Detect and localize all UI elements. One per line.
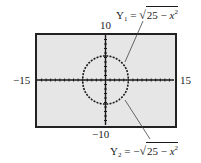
sqrt-icon: √ <box>139 144 146 158</box>
equation-y1: Y1 = √25 − x2 <box>116 6 178 25</box>
y1-exponent: 2 <box>174 8 178 16</box>
y2-leader-line <box>125 100 150 139</box>
ymin-label: −10 <box>92 129 109 140</box>
y2-subscript: 2 <box>118 151 122 159</box>
y2-radicand: 25 − x2 <box>146 142 178 157</box>
y2-name: Y <box>110 145 118 157</box>
y1-equals: = <box>130 9 136 21</box>
sqrt-icon: √ <box>139 8 146 22</box>
y1-radicand: 25 − x2 <box>146 6 178 21</box>
y1-leader-line <box>125 21 143 62</box>
xmin-label: −15 <box>13 75 30 86</box>
xmax-label: 15 <box>180 75 191 86</box>
y1-name: Y <box>116 9 124 21</box>
y1-radicand-const: 25 − <box>147 9 170 21</box>
y1-subscript: 1 <box>124 15 128 23</box>
y2-radicand-const: 25 − <box>147 145 170 157</box>
ymax-label: 10 <box>100 20 111 31</box>
equation-y2: Y2 = −√25 − x2 <box>110 142 178 161</box>
y2-exponent: 2 <box>175 144 179 152</box>
y2-equals: = <box>124 145 130 157</box>
